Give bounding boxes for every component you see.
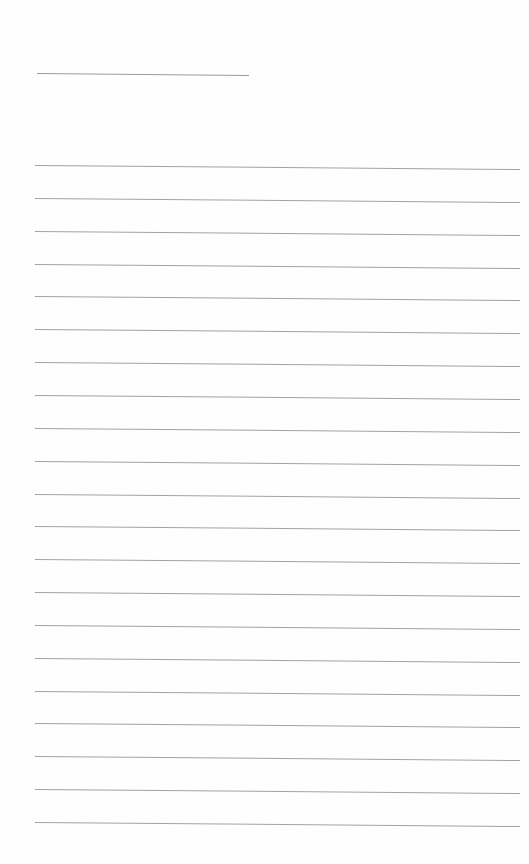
- writing-line[interactable]: [35, 428, 520, 433]
- writing-line[interactable]: [35, 296, 520, 301]
- writing-line[interactable]: [35, 789, 520, 794]
- writing-line[interactable]: [35, 264, 520, 269]
- writing-line[interactable]: [35, 822, 520, 827]
- writing-line[interactable]: [35, 723, 520, 728]
- writing-line[interactable]: [35, 395, 520, 400]
- writing-line[interactable]: [35, 559, 520, 564]
- writing-line[interactable]: [35, 691, 520, 696]
- writing-line[interactable]: [35, 494, 520, 499]
- writing-line[interactable]: [35, 756, 520, 761]
- writing-line[interactable]: [35, 362, 520, 367]
- lined-paper-page: [0, 0, 529, 864]
- ruled-lines-area: [0, 0, 529, 864]
- writing-line[interactable]: [35, 329, 520, 334]
- writing-line[interactable]: [35, 592, 520, 597]
- writing-line[interactable]: [35, 198, 520, 203]
- writing-line[interactable]: [35, 461, 520, 466]
- writing-line[interactable]: [35, 658, 520, 663]
- writing-line[interactable]: [35, 625, 520, 630]
- writing-line[interactable]: [35, 165, 520, 170]
- writing-line[interactable]: [35, 526, 520, 531]
- writing-line[interactable]: [35, 231, 520, 236]
